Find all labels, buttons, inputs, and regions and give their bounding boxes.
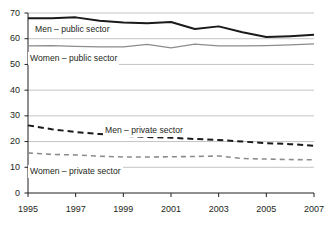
x-tick-label: 1995 <box>13 205 43 214</box>
x-tick-label: 1997 <box>61 205 91 214</box>
y-tick-label: 10 <box>0 163 20 172</box>
y-tick-label: 50 <box>0 60 20 69</box>
y-tick-label: 40 <box>0 86 20 95</box>
x-tick-label: 2001 <box>156 205 186 214</box>
x-tick-label: 1999 <box>108 205 138 214</box>
y-tick-label: 30 <box>0 111 20 120</box>
x-tick-label: 2007 <box>299 205 329 214</box>
series-label-women-private: Women – private sector <box>28 165 123 178</box>
y-tick-label: 70 <box>0 9 20 18</box>
x-tick-label: 2005 <box>251 205 281 214</box>
series-line-3 <box>28 153 314 160</box>
series-label-men-public: Men – public sector <box>33 23 112 36</box>
series-label-women-public: Women – public sector <box>28 52 119 65</box>
series-line-1 <box>28 44 314 48</box>
y-tick-label: 20 <box>0 137 20 146</box>
x-axis-ticks <box>28 193 314 197</box>
y-tick-label: 0 <box>0 189 20 198</box>
series-label-men-private: Men – private sector <box>103 124 185 137</box>
x-tick-label: 2003 <box>204 205 234 214</box>
y-tick-label: 60 <box>0 34 20 43</box>
